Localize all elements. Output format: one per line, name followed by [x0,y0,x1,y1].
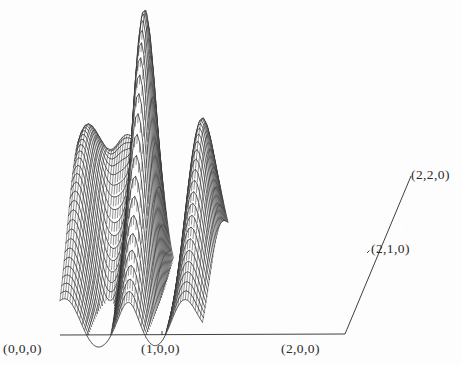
corner-label-x-max: (2,0,0) [281,341,320,357]
corner-label-y-mid: (2,1,0) [371,241,410,257]
wireframe-surface-canvas [0,0,462,365]
corner-label-y-max: (2,2,0) [411,167,450,183]
axis-tick-y-mid [367,251,370,254]
surface-plot-figure: (0,0,0)(1,0,0)(2,0,0)(2,1,0)(2,2,0) [0,0,462,365]
corner-label-x-mid: (1,0,0) [141,341,180,357]
corner-label-origin: (0,0,0) [3,341,42,357]
mesh-wireframe [60,11,228,348]
